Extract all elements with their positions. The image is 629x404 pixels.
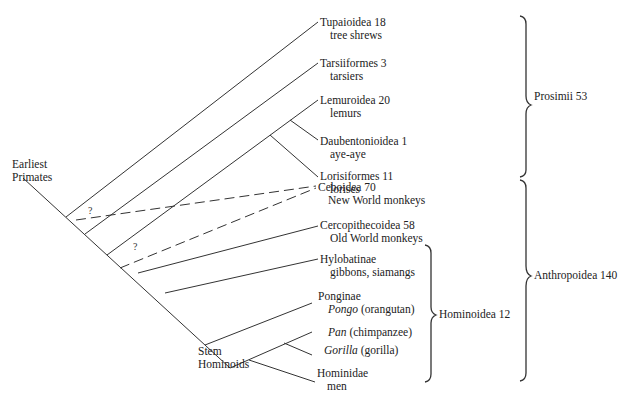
taxon-common: tarsiers (320, 70, 387, 83)
stem-hominoids-label: Stem Hominoids (198, 345, 249, 371)
trunk (23, 178, 230, 368)
taxon-tupaioidea: Tupaioidea 18 tree shrews (320, 16, 386, 42)
taxon-name: Ceboidea 70 (318, 181, 376, 193)
taxon-common: (chimpanzee) (349, 326, 412, 338)
branch-hominidae (249, 360, 315, 382)
phylogeny-lines (0, 0, 629, 404)
taxon-hominidae: Hominidae men (317, 367, 368, 393)
taxon-common: Old World monkeys (320, 232, 423, 245)
taxon-name: Hylobatinae (320, 253, 376, 265)
taxon-name: Daubentonioidea 1 (320, 135, 407, 147)
branch-lorisiformes (270, 135, 318, 177)
taxon-name: Cercopithecoidea 58 (320, 219, 415, 231)
root-label-line1: Earliest (12, 158, 47, 170)
taxon-tarsiiformes: Tarsiiformes 3 tarsiers (320, 57, 387, 83)
taxon-gorilla: Gorilla (gorilla) (324, 344, 398, 357)
genus: Pan (328, 326, 347, 338)
stem-label-line1: Stem (198, 345, 222, 357)
taxon-name: Tarsiiformes 3 (320, 57, 387, 69)
taxon-name: Lemuroidea 20 (320, 94, 390, 106)
branch-gorilla (284, 343, 312, 355)
genus: Gorilla (324, 344, 358, 356)
root-label-line2: Primates (12, 171, 52, 183)
branch-tarsiiformes (85, 63, 318, 234)
taxon-name: Ponginae (318, 290, 361, 302)
taxon-ceboidea: Ceboidea 70 New World monkeys (318, 181, 425, 207)
taxon-common: (orangutan) (361, 303, 415, 315)
group-anthropoidea: Anthropoidea 140 (534, 269, 617, 282)
brace-prosimii (520, 16, 531, 177)
taxon-pan: Pan (chimpanzee) (328, 326, 412, 339)
taxon-common: men (317, 380, 368, 393)
taxon-common: gibbons, siamangs (320, 266, 415, 279)
group-prosimii: Prosimii 53 (534, 90, 587, 103)
branch-lemuroidea (107, 100, 318, 255)
brace-hominoidea (425, 245, 436, 382)
uncertain-mark-1: ? (88, 205, 92, 216)
taxon-name: Hominidae (317, 367, 368, 379)
taxon-common: lemurs (320, 107, 390, 120)
brace-anthropoidea (520, 180, 531, 381)
branch-hylobatinae (165, 259, 318, 293)
taxon-cercopithecoidea: Cercopithecoidea 58 Old World monkeys (320, 219, 423, 245)
taxon-pongo: Pongo (orangutan) (318, 303, 415, 315)
taxon-common: tree shrews (320, 29, 386, 42)
taxon-common: aye-aye (320, 148, 407, 161)
uncertain-mark-2: ? (133, 241, 137, 252)
taxon-common: (gorilla) (361, 344, 399, 356)
root-label: Earliest Primates (12, 158, 52, 184)
branch-daubentonioidea (290, 120, 318, 140)
group-hominoidea: Hominoidea 12 (439, 308, 510, 321)
taxon-ponginae: Ponginae Pongo (orangutan) (318, 290, 415, 316)
genus: Pongo (328, 303, 358, 315)
taxon-lemuroidea: Lemuroidea 20 lemurs (320, 94, 390, 120)
stem-label-line2: Hominoids (198, 358, 249, 370)
branch-tupaioidea (66, 22, 318, 217)
taxon-name: Tupaioidea 18 (320, 16, 386, 28)
taxon-daubentonioidea: Daubentonioidea 1 aye-aye (320, 135, 407, 161)
taxon-common: New World monkeys (318, 194, 425, 207)
taxon-hylobatinae: Hylobatinae gibbons, siamangs (320, 253, 415, 279)
